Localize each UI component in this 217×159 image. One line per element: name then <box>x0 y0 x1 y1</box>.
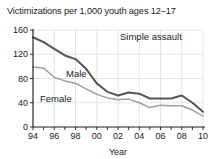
axes <box>33 29 205 127</box>
chart-page: Victimizations per 1,000 youth ages 12–1… <box>0 0 217 159</box>
series-label-male: Male <box>66 68 87 79</box>
line-chart: 04080120160 949698000204060810 Male Fema… <box>0 0 217 159</box>
x-tick-label: 06 <box>155 131 165 141</box>
y-tick-label: 80 <box>18 74 28 84</box>
y-tick-label: 120 <box>13 49 28 59</box>
x-tick-label: 96 <box>49 131 59 141</box>
x-tick-label: 10 <box>198 131 208 141</box>
x-axis-ticks: 949698000204060810 <box>28 127 208 141</box>
x-tick-label: 98 <box>70 131 80 141</box>
y-tick-label: 160 <box>13 25 28 35</box>
x-tick-label: 02 <box>113 131 123 141</box>
x-tick-label: 08 <box>177 131 187 141</box>
x-tick-label: 94 <box>28 131 38 141</box>
y-tick-label: 40 <box>18 98 28 108</box>
y-axis-ticks: 04080120160 <box>13 25 33 132</box>
annotation-simple-assault: Simple assault <box>120 31 182 42</box>
x-axis-title: Year <box>109 147 127 157</box>
x-tick-label: 00 <box>92 131 102 141</box>
series-label-female: Female <box>40 93 72 104</box>
x-tick-label: 04 <box>134 131 144 141</box>
